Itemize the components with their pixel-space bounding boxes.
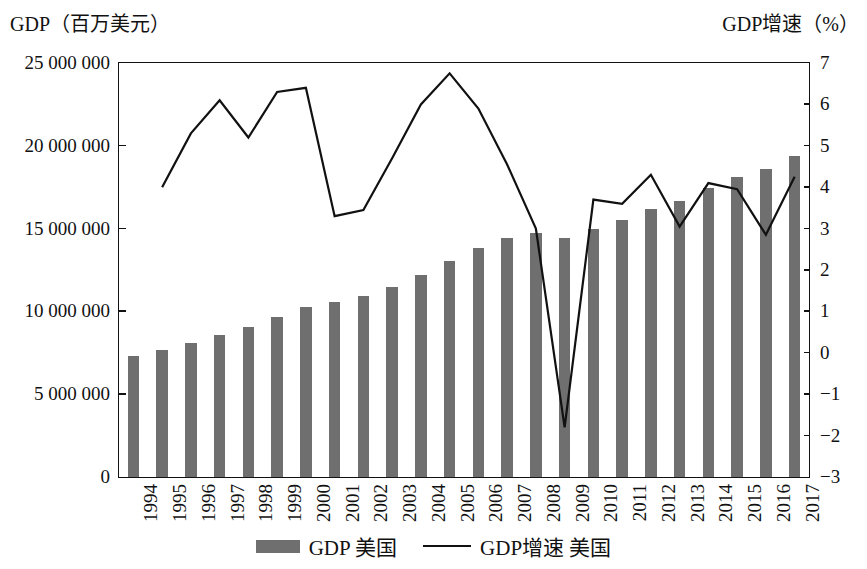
legend-item-growth: GDP增速 美国 — [423, 531, 611, 561]
x-tick-2005: 2005 — [457, 484, 479, 522]
x-tick-2004: 2004 — [428, 484, 450, 522]
x-tick-2001: 2001 — [342, 484, 364, 522]
right-tickmark — [804, 269, 809, 271]
right-tick-4: 4 — [809, 176, 830, 198]
gdp-chart: GDP（百万美元） GDP增速（%） 05 000 00010 000 0001… — [0, 0, 867, 569]
x-tick-2016: 2016 — [773, 484, 795, 522]
legend-label-growth: GDP增速 美国 — [480, 531, 611, 561]
x-tick-2008: 2008 — [543, 484, 565, 522]
right-tickmark — [804, 186, 809, 188]
x-tick-2007: 2007 — [514, 484, 536, 522]
left-tickmark — [119, 393, 126, 395]
right-tick-6: 6 — [809, 93, 830, 115]
x-tick-2006: 2006 — [485, 484, 507, 522]
left-tick-15000000: 15 000 000 — [25, 218, 120, 240]
left-tick-5000000: 5 000 000 — [34, 383, 119, 405]
right-axis-title: GDP增速（%） — [722, 8, 859, 37]
right-tickmark — [804, 228, 809, 230]
legend-label-gdp: GDP 美国 — [309, 531, 397, 561]
left-tickmark — [119, 310, 126, 312]
left-tickmark — [119, 145, 126, 147]
left-tick-10000000: 10 000 000 — [25, 300, 120, 322]
left-tick-25000000: 25 000 000 — [25, 52, 120, 74]
line-series-layer — [119, 63, 809, 477]
right-tickmark — [804, 145, 809, 147]
x-tick-1999: 1999 — [284, 484, 306, 522]
legend-item-gdp: GDP 美国 — [256, 531, 397, 561]
right-tick-1: 1 — [809, 300, 830, 322]
x-tick-1994: 1994 — [140, 484, 162, 522]
x-tick-2013: 2013 — [687, 484, 709, 522]
right-tick--1: −1 — [809, 383, 840, 405]
x-tick-1998: 1998 — [255, 484, 277, 522]
left-axis-title: GDP（百万美元） — [10, 8, 170, 37]
x-tick-2010: 2010 — [600, 484, 622, 522]
x-tick-2012: 2012 — [658, 484, 680, 522]
left-tick-0: 0 — [101, 466, 120, 488]
x-tick-2000: 2000 — [313, 484, 335, 522]
x-tick-1995: 1995 — [169, 484, 191, 522]
right-tickmark — [804, 435, 809, 437]
right-tickmark — [804, 103, 809, 105]
chart-legend: GDP 美国 GDP增速 美国 — [0, 531, 867, 561]
bar-swatch-icon — [256, 540, 300, 553]
x-tick-2014: 2014 — [715, 484, 737, 522]
x-tick-2011: 2011 — [629, 484, 651, 521]
x-tick-1997: 1997 — [227, 484, 249, 522]
x-tick-2002: 2002 — [370, 484, 392, 522]
plot-area: 05 000 00010 000 00015 000 00020 000 000… — [118, 62, 810, 478]
x-tick-2009: 2009 — [572, 484, 594, 522]
growth-line-path — [162, 73, 795, 427]
right-tick--2: −2 — [809, 425, 840, 447]
right-tick-3: 3 — [809, 218, 830, 240]
right-tickmark — [804, 310, 809, 312]
line-swatch-icon — [423, 545, 471, 547]
right-tick-0: 0 — [809, 342, 830, 364]
right-tickmark — [804, 352, 809, 354]
right-tickmark — [804, 393, 809, 395]
x-tick-2015: 2015 — [744, 484, 766, 522]
left-tick-20000000: 20 000 000 — [25, 135, 120, 157]
x-tick-1996: 1996 — [198, 484, 220, 522]
right-tick-7: 7 — [809, 52, 830, 74]
right-tick-5: 5 — [809, 135, 830, 157]
x-tick-2003: 2003 — [399, 484, 421, 522]
right-tick-2: 2 — [809, 259, 830, 281]
left-tickmark — [119, 228, 126, 230]
x-tick-2017: 2017 — [802, 484, 824, 522]
